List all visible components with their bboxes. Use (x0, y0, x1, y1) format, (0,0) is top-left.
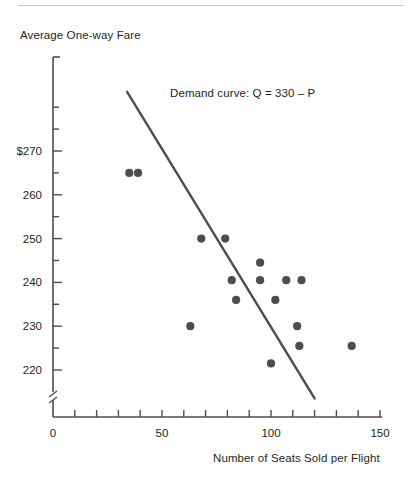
data-point-marker (197, 235, 205, 243)
x-axis-tick-label: 50 (156, 427, 169, 439)
data-point-marker (293, 322, 301, 330)
demand-curve-label: Demand curve: Q = 330 – P (170, 87, 315, 99)
data-point-marker (186, 322, 194, 330)
data-series-group (125, 92, 356, 399)
data-point-marker (232, 296, 240, 304)
axes-group: $270260250240230220050100150 (16, 57, 389, 439)
y-axis-tick-label: 260 (23, 189, 42, 201)
data-point-marker (228, 276, 236, 284)
y-axis-tick-label: 230 (23, 320, 42, 332)
data-point-marker (256, 259, 264, 267)
data-point-marker (297, 276, 305, 284)
y-axis-tick-label: $270 (16, 145, 42, 157)
y-axis-tick-label: 220 (23, 364, 42, 376)
data-point-marker (125, 169, 133, 177)
y-axis-tick-label: 250 (23, 233, 42, 245)
data-point-marker (134, 169, 142, 177)
data-point-marker (282, 276, 290, 284)
scatter-plot-svg: $270260250240230220050100150 (0, 0, 412, 489)
y-axis-tick-label: 240 (23, 276, 42, 288)
figure-container: Average One-way Fare $270260250240230220… (0, 0, 412, 489)
data-point-marker (348, 342, 356, 350)
data-point-marker (267, 359, 275, 367)
data-point-marker (295, 342, 303, 350)
x-axis-tick-label: 150 (370, 427, 389, 439)
demand-curve-line (127, 92, 314, 399)
data-point-marker (221, 235, 229, 243)
x-axis-tick-label: 0 (50, 427, 56, 439)
data-point-marker (271, 296, 279, 304)
x-axis-title: Number of Seats Sold per Flight (213, 452, 380, 464)
x-axis-tick-label: 100 (261, 427, 280, 439)
data-point-marker (256, 276, 264, 284)
